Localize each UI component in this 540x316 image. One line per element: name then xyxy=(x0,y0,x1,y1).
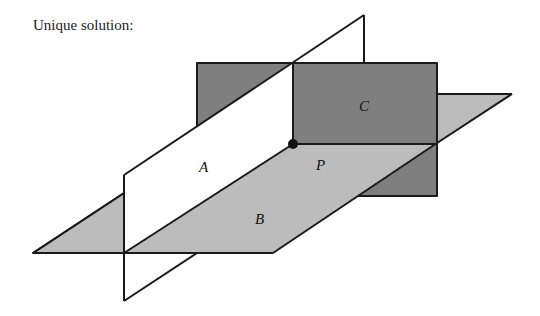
label-b: B xyxy=(255,211,264,227)
three-planes-diagram: A B C P xyxy=(0,0,540,316)
label-c: C xyxy=(359,98,370,114)
label-p: P xyxy=(315,157,325,173)
point-p-marker xyxy=(288,139,298,149)
label-a: A xyxy=(198,159,209,175)
